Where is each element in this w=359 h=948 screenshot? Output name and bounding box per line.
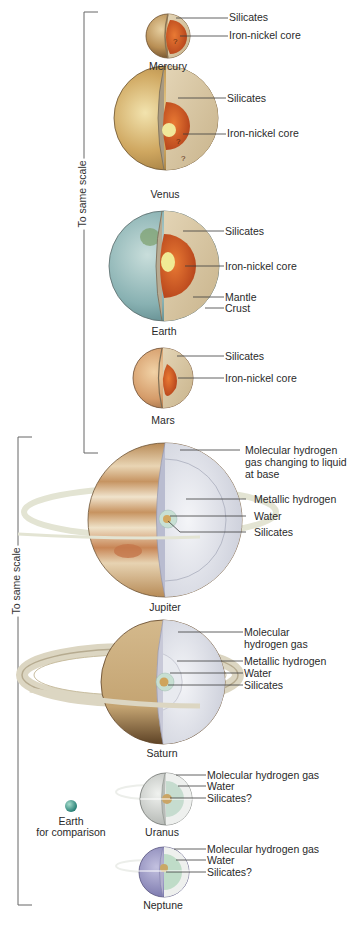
saturn-label-molecular-hydrogen: Molecular hydrogen gas bbox=[244, 626, 324, 650]
mercury-cutaway: ? bbox=[146, 14, 228, 58]
venus-label-core: Iron-nickel core bbox=[227, 127, 299, 139]
saturn-label-metallic-hydrogen: Metallic hydrogen bbox=[244, 655, 326, 667]
jovian-scale-label: To same scale bbox=[10, 545, 22, 616]
venus-label-silicates: Silicates bbox=[227, 92, 266, 104]
jupiter-label-water: Water bbox=[254, 510, 282, 522]
earth-label-core: Iron-nickel core bbox=[225, 260, 297, 272]
earth-comparison-sublabel: for comparison bbox=[21, 826, 121, 838]
jupiter-label-silicates: Silicates bbox=[254, 526, 293, 538]
uranus-label-silicates: Silicates? bbox=[207, 792, 252, 804]
svg-text:?: ? bbox=[173, 37, 178, 46]
earth-cutaway bbox=[109, 211, 224, 321]
jupiter-label-metallic-hydrogen: Metallic hydrogen bbox=[254, 493, 336, 505]
planet-name-jupiter: Jupiter bbox=[125, 601, 205, 613]
mars-label-silicates: Silicates bbox=[225, 350, 264, 362]
planet-name-venus: Venus bbox=[125, 188, 205, 200]
venus-cutaway: ? ? bbox=[114, 66, 226, 170]
planet-name-neptune: Neptune bbox=[123, 899, 203, 911]
earth-comparison-icon bbox=[65, 800, 77, 812]
neptune-label-water: Water bbox=[207, 854, 235, 866]
planet-name-uranus: Uranus bbox=[122, 826, 202, 838]
planet-name-mercury: Mercury bbox=[128, 60, 208, 72]
uranus-cutaway bbox=[116, 773, 206, 825]
mars-cutaway bbox=[133, 348, 224, 408]
terrestrial-scale-label: To same scale bbox=[76, 158, 88, 229]
saturn-cutaway bbox=[22, 620, 243, 744]
svg-text:?: ? bbox=[176, 137, 181, 146]
mercury-label-silicates: Silicates bbox=[229, 11, 268, 23]
mercury-label-core: Iron-nickel core bbox=[229, 29, 301, 41]
jupiter-cutaway bbox=[18, 443, 276, 597]
earth-label-crust: Crust bbox=[225, 302, 250, 314]
terrestrial-scale-bracket bbox=[84, 12, 98, 453]
svg-text:?: ? bbox=[181, 154, 186, 163]
saturn-label-silicates: Silicates bbox=[244, 679, 283, 691]
planet-name-mars: Mars bbox=[123, 414, 203, 426]
uranus-label-water: Water bbox=[207, 780, 235, 792]
neptune-cutaway bbox=[116, 847, 206, 897]
mars-label-core: Iron-nickel core bbox=[225, 372, 297, 384]
planet-name-saturn: Saturn bbox=[122, 747, 202, 759]
earth-label-silicates: Silicates bbox=[225, 225, 264, 237]
saturn-label-water: Water bbox=[244, 667, 272, 679]
planet-name-earth: Earth bbox=[124, 325, 204, 337]
neptune-label-silicates: Silicates? bbox=[207, 866, 252, 878]
jupiter-label-molecular-hydrogen: Molecular hydrogen gas changing to liqui… bbox=[245, 444, 357, 480]
